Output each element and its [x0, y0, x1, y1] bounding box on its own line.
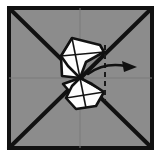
diagram-canvas: [0, 0, 161, 157]
origami-diagram: Origami fold step diagram Square paper w…: [0, 0, 161, 157]
